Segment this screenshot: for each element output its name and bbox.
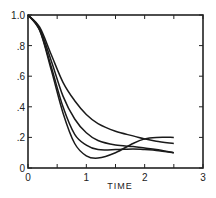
x-axis-title: TIME xyxy=(107,181,133,191)
x-tick-label: 1 xyxy=(84,172,90,183)
y-tick-label: .4 xyxy=(17,102,26,113)
series-line-4 xyxy=(28,15,174,158)
y-tick-label: .6 xyxy=(17,71,26,82)
tick-labels: 01230.2.4.6.81.0 xyxy=(11,10,206,183)
series-line-1 xyxy=(28,15,174,144)
y-tick-label: .2 xyxy=(17,132,26,143)
series-line-3 xyxy=(28,15,174,153)
y-tick-label: .8 xyxy=(17,41,26,52)
series-line-2 xyxy=(28,15,174,153)
y-tick-label: 1.0 xyxy=(11,10,25,21)
y-tick-label: 0 xyxy=(19,163,25,174)
x-tick-label: 0 xyxy=(25,172,31,183)
data-curves xyxy=(28,15,174,158)
x-tick-label: 2 xyxy=(142,172,148,183)
line-chart: 01230.2.4.6.81.0 TIME xyxy=(0,0,216,198)
x-tick-label: 3 xyxy=(200,172,206,183)
